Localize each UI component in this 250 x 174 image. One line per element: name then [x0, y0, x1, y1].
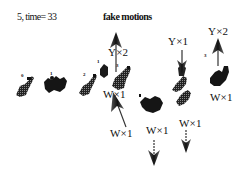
- motion-label-w1-mid: W×1: [103, 88, 126, 100]
- pose-silhouette-6: [172, 76, 191, 106]
- pose-silhouette-8: [210, 66, 229, 86]
- pose-index: 1: [97, 59, 100, 64]
- pose-index: 1: [50, 71, 53, 76]
- pose-index: 3: [116, 63, 119, 68]
- motion-label-y2-right: Y×2: [208, 25, 228, 37]
- arrow-down-icon: [148, 140, 160, 166]
- pose-index: 2: [83, 72, 86, 77]
- motion-label-w1-far-right: W×1: [210, 91, 233, 103]
- arrow-down-icon: [181, 130, 191, 153]
- pose-silhouette-1: [44, 76, 67, 93]
- pose-silhouette-4: [112, 66, 131, 90]
- arrow-up-icon: [212, 38, 224, 66]
- motion-label-y2-left: Y×2: [108, 46, 128, 58]
- motion-label-w1-lower-right: W×1: [179, 117, 202, 129]
- pose-silhouette-3: [100, 64, 108, 78]
- motion-label-y1-right: Y×1: [168, 35, 188, 47]
- motion-label-w1-lower-center: W×1: [146, 124, 169, 136]
- pose-silhouette-2: [79, 74, 97, 96]
- pose-silhouette-5: [139, 94, 163, 113]
- pose-index: 3: [204, 53, 207, 58]
- pose-index: 0: [21, 73, 24, 78]
- pose-silhouette-0: [16, 76, 34, 97]
- motion-label-w1-lower-left: W×1: [110, 127, 133, 139]
